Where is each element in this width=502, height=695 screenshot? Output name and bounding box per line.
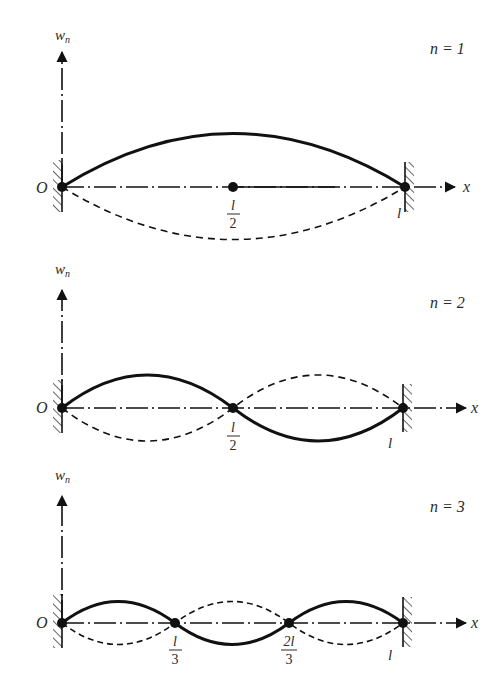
panel-mode-1: wn n = 1 x O l l 2 xyxy=(36,27,470,240)
w-axis-label: wn xyxy=(55,27,70,45)
node-point xyxy=(228,403,238,413)
svg-text:l: l xyxy=(173,634,177,649)
w-axis-label: wn xyxy=(55,467,70,485)
panel-mode-2: wn n = 2 x O l l 2 xyxy=(36,261,478,453)
w-axis-label: wn xyxy=(55,261,70,279)
origin-label: O xyxy=(36,179,48,196)
svg-text:2l: 2l xyxy=(284,634,295,649)
end-label: l xyxy=(388,435,392,451)
svg-text:2: 2 xyxy=(230,438,237,453)
node-point xyxy=(398,618,408,628)
svg-text:2: 2 xyxy=(230,216,237,231)
fraction-label: l 2 xyxy=(227,420,240,453)
node-point xyxy=(57,182,67,192)
node-point xyxy=(57,403,67,413)
svg-text:3: 3 xyxy=(172,652,179,667)
mode-shape-solid xyxy=(62,134,405,188)
mode-label: n = 2 xyxy=(430,294,465,311)
node-point xyxy=(398,403,408,413)
node-point xyxy=(284,618,294,628)
fraction-label: l 3 xyxy=(169,634,182,667)
mode-label: n = 3 xyxy=(430,498,465,515)
x-axis-label: x xyxy=(470,399,478,416)
mode-shape-dashed xyxy=(62,187,405,240)
x-axis-label: x xyxy=(470,614,478,631)
node-point xyxy=(228,182,238,192)
x-axis-label: x xyxy=(462,178,470,195)
panel-mode-3: wn n = 3 x O l l 3 2l 3 xyxy=(36,467,478,667)
mode-shape-diagram: wn n = 1 x O l l 2 xyxy=(0,0,502,695)
fraction-label: 2l 3 xyxy=(281,634,297,667)
origin-label: O xyxy=(36,399,48,416)
origin-label: O xyxy=(36,614,48,631)
fraction-label: l 2 xyxy=(227,198,240,231)
svg-text:l: l xyxy=(231,198,235,213)
mode-label: n = 1 xyxy=(430,40,465,57)
end-label: l xyxy=(397,205,401,221)
svg-text:3: 3 xyxy=(286,652,293,667)
node-point xyxy=(400,182,410,192)
node-point xyxy=(170,618,180,628)
svg-text:l: l xyxy=(231,420,235,435)
end-label: l xyxy=(388,647,392,663)
node-point xyxy=(57,618,67,628)
